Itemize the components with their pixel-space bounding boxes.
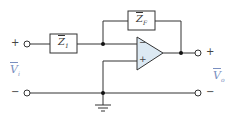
junction-dot bbox=[101, 42, 105, 46]
junction-dot bbox=[101, 91, 105, 95]
input-minus-sign: − bbox=[11, 87, 19, 97]
input-plus-terminal bbox=[24, 41, 30, 47]
opamp-inverting-sign: − bbox=[139, 38, 147, 47]
input-plus-sign: + bbox=[11, 38, 19, 48]
junction-dot bbox=[179, 51, 183, 55]
input-minus-terminal bbox=[24, 90, 30, 96]
zf-label: ZF bbox=[136, 14, 147, 26]
z1-label: Z1 bbox=[58, 37, 69, 49]
input-voltage-label: Vi bbox=[10, 64, 20, 77]
output-plus-sign: + bbox=[206, 47, 214, 57]
output-minus-terminal bbox=[195, 90, 201, 96]
opamp-noninverting-sign: + bbox=[139, 55, 147, 64]
output-plus-terminal bbox=[195, 50, 201, 56]
output-minus-sign: − bbox=[206, 87, 214, 97]
circuit-diagram bbox=[0, 0, 236, 124]
output-voltage-label: Vo bbox=[213, 70, 225, 83]
